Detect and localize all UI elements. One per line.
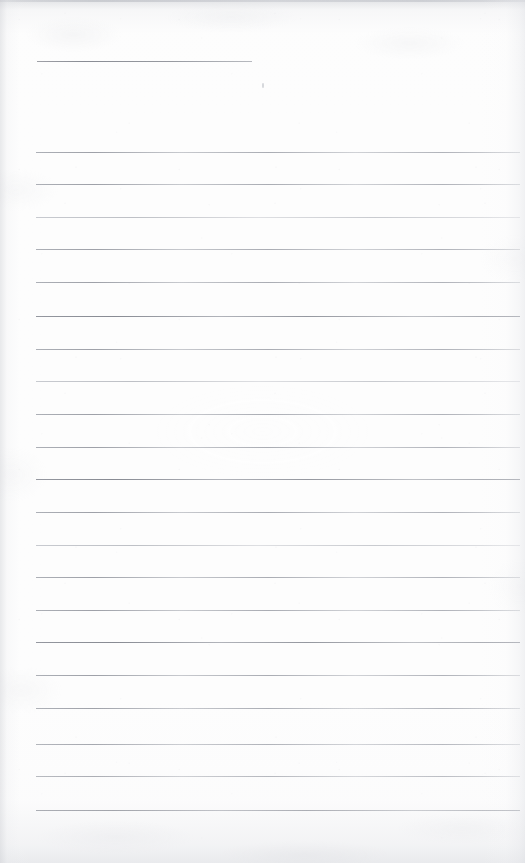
scanned-page xyxy=(0,0,525,863)
paper-background xyxy=(0,0,525,863)
